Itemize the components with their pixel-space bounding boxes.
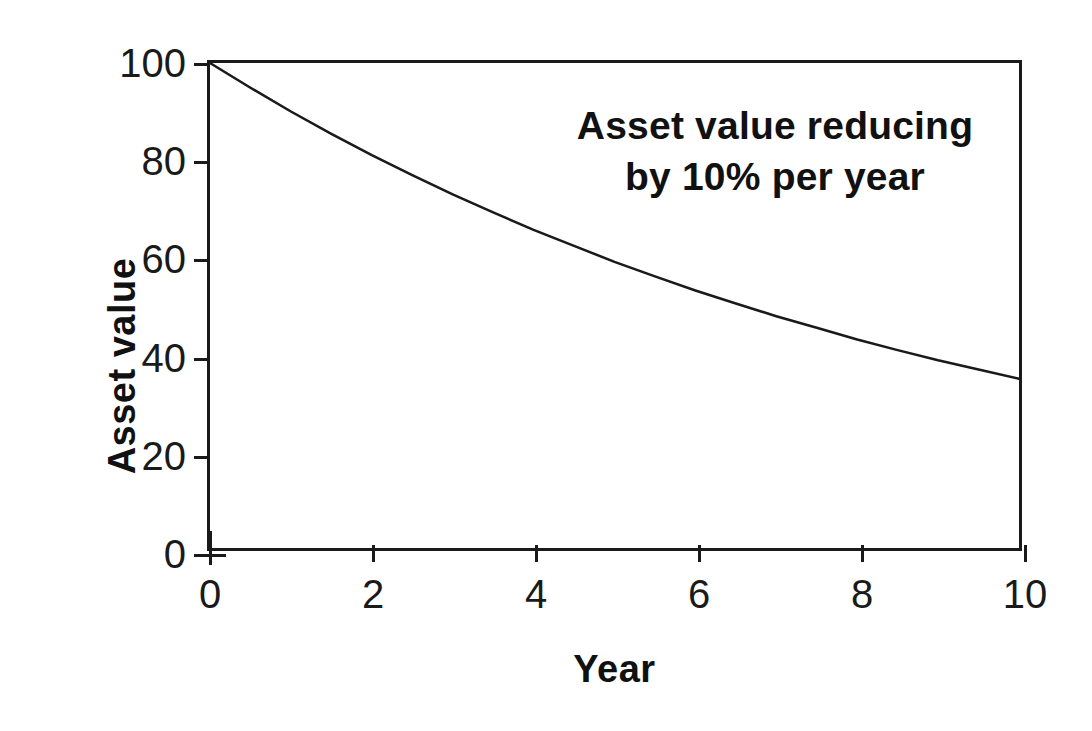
x-tick-label: 6 — [688, 574, 710, 614]
y-tick-label: 20 — [142, 436, 187, 476]
x-tick-mark — [861, 545, 864, 562]
y-tick-mark — [194, 358, 210, 361]
y-tick-label: 60 — [142, 239, 187, 279]
y-tick-label: 40 — [142, 338, 187, 378]
x-axis-title: Year — [207, 648, 1022, 691]
x-tick-label: 8 — [851, 574, 873, 614]
y-tick-mark — [194, 161, 210, 164]
x-tick-mark — [698, 545, 701, 562]
x-tick-label: 10 — [1003, 574, 1048, 614]
x-tick-label: 2 — [362, 574, 384, 614]
decay-curve — [210, 63, 1019, 548]
plot-area: 020406080100 0246810 — [207, 60, 1022, 551]
y-tick-label: 0 — [164, 534, 186, 574]
x-tick-mark — [209, 531, 212, 565]
chart-figure: Asset value Year Asset value reducing by… — [0, 0, 1092, 731]
y-tick-mark — [194, 456, 210, 459]
x-tick-mark — [535, 545, 538, 562]
y-tick-label: 100 — [119, 43, 186, 83]
x-tick-label: 4 — [525, 574, 547, 614]
y-tick-mark — [194, 259, 210, 262]
x-tick-label: 0 — [199, 574, 221, 614]
y-axis-title: Asset value — [101, 257, 144, 474]
x-tick-mark — [372, 545, 375, 562]
y-tick-mark — [194, 63, 210, 66]
x-tick-mark — [1024, 545, 1027, 562]
y-tick-label: 80 — [142, 141, 187, 181]
